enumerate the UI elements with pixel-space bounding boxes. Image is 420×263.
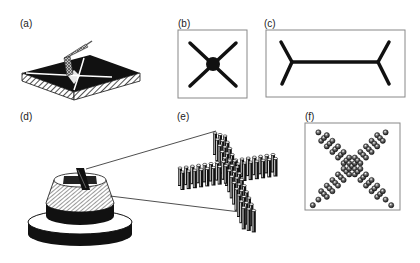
panel-b [178,30,247,98]
zoom-line-bottom [110,196,240,212]
panel-e-pillars [178,132,278,233]
panel-c [266,30,405,97]
panel-d-pedestal [28,168,132,246]
zoom-line-top [86,131,216,169]
panel-a-slab [22,41,140,100]
diagram-canvas [0,0,420,263]
panel-f [305,123,400,210]
